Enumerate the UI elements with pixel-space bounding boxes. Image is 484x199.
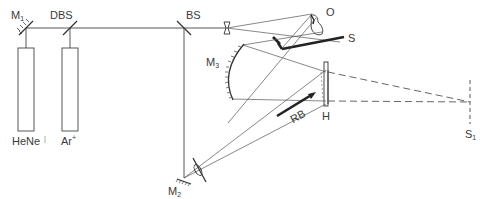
label-m1: M1 xyxy=(11,9,24,22)
object-beam-ray xyxy=(227,14,312,28)
diverging-lens-2 xyxy=(192,158,206,182)
hologram-plate-h xyxy=(321,62,328,106)
object-o xyxy=(311,15,323,35)
label-hologram: H xyxy=(322,110,330,122)
screen-s xyxy=(273,37,344,49)
virtual-image-ray xyxy=(328,101,470,102)
label-dbs: DBS xyxy=(50,9,73,21)
optical-setup-diagram: M1 DBS BS O S M3 RB H M2 S1 HeNe Ar+ xyxy=(0,0,484,199)
label-m2: M2 xyxy=(168,185,181,198)
m3-ray xyxy=(232,99,326,101)
label-hene: HeNe xyxy=(12,135,40,147)
label-bs: BS xyxy=(186,9,201,21)
virtual-image-ray xyxy=(328,72,470,102)
label-argon: Ar+ xyxy=(61,134,76,147)
reference-beam-ray xyxy=(184,70,326,178)
label-m3: M3 xyxy=(206,56,219,69)
laser-argon xyxy=(62,28,78,131)
laser-hene xyxy=(18,28,34,131)
label-s1: S1 xyxy=(465,128,476,141)
mirror-m2 xyxy=(176,179,191,186)
label-screen: S xyxy=(348,32,355,44)
label-object: O xyxy=(326,6,335,18)
scattered-ray xyxy=(283,14,312,47)
concave-mirror-m3 xyxy=(225,44,244,100)
